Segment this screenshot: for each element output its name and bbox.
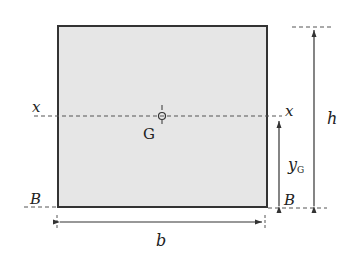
label-base-right: B <box>283 191 295 209</box>
label-x-left: x <box>32 98 41 116</box>
label-base-left: B <box>29 190 41 208</box>
label-height: h <box>327 109 337 128</box>
label-x-right: x <box>285 102 294 120</box>
label-y-subscript: G <box>297 165 304 175</box>
label-centroid: G <box>143 125 155 143</box>
label-centroid-distance: yG <box>287 155 304 175</box>
label-width: b <box>156 231 166 250</box>
cross-section-diagram: x x G h yG B B b <box>0 0 359 254</box>
